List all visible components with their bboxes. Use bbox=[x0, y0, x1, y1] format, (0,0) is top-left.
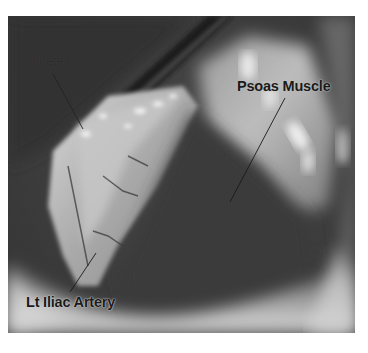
iliac-leader-line bbox=[70, 253, 96, 292]
ureter-leader-line bbox=[53, 74, 83, 129]
label-psoas-muscle: Psoas Muscle bbox=[237, 78, 331, 94]
surgical-photo: Ureter Psoas Muscle Lt Iliac Artery bbox=[8, 16, 355, 333]
psoas-leader-line bbox=[230, 98, 285, 202]
label-ureter: Ureter bbox=[33, 53, 68, 68]
label-lt-iliac-artery: Lt Iliac Artery bbox=[26, 294, 115, 310]
